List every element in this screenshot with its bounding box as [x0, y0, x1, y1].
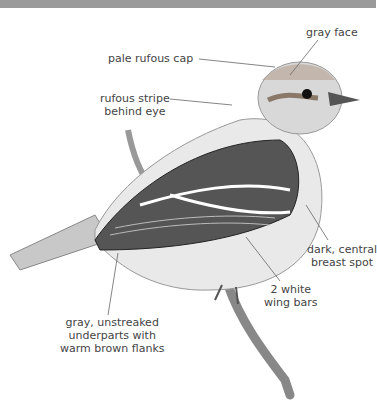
label-line: gray, unstreaked [60, 316, 164, 329]
label-line: wing bars [264, 296, 317, 309]
label-line: warm brown flanks [60, 342, 164, 355]
label-wing-bars: 2 white wing bars [264, 283, 317, 309]
label-rufous-stripe: rufous stripe behind eye [100, 92, 170, 118]
label-line: rufous stripe [100, 92, 170, 105]
label-line: dark, central [307, 243, 377, 256]
label-line: underparts with [60, 329, 164, 342]
label-gray-face: gray face [306, 26, 358, 39]
label-pale-rufous-cap: pale rufous cap [108, 52, 193, 65]
label-line: breast spot [307, 256, 377, 269]
label-line: behind eye [100, 105, 170, 118]
label-line: 2 white [264, 283, 317, 296]
label-breast-spot: dark, central breast spot [307, 243, 377, 269]
label-underparts: gray, unstreaked underparts with warm br… [60, 316, 164, 355]
